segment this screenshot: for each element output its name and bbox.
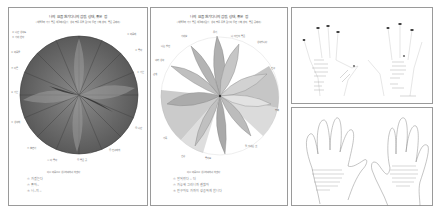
flower-mandala-drawing [151,8,289,207]
handwritten-label: 관계 [153,72,157,76]
footer-item: ② 가능해 그러니까 괜찮아 [173,183,209,187]
handwritten-label: 건강 [181,154,185,158]
panel-flower-mandala: 나의 요즘 환기다니의 감정, 상태, 좋은 점 (색을 골라 가장 좋은 색깔… [150,7,288,206]
handwritten-label: 친구 [271,66,275,70]
footer-item: ① 가겠는다 [27,177,43,181]
handwritten-label: 나는 발전 [161,44,170,48]
handwritten-label: ⑩ 불면서 [27,146,36,150]
handwritten-label: ② 좋아 [135,48,142,52]
handwritten-label: ⑫ 좋은 곳 [77,158,87,162]
handwritten-label: ③ 마음에 [127,32,136,36]
handwritten-label: ⑧ 기분 [11,90,18,94]
panel-dark-mandala: 나의 요즘 환기다니의 감정, 상태, 좋은 점 (색을 골라 가장 좋은 색깔… [8,7,148,206]
handwritten-label: ⑦ 다른 [11,66,18,70]
hands-fingernail-drawing [292,8,434,105]
handwritten-label: ⑥ 마음을 [11,50,20,54]
footer-title: 다시 마음으로 생활하며 하려 하겠다 [47,170,80,174]
handwritten-label: ⑨ 생각해 [11,120,20,124]
panel-hands-top [291,7,433,104]
panel-hands-bottom [291,107,433,206]
footer-item: ③ 너~지~ [27,189,42,193]
handwritten-label: ① 기분 [137,70,144,74]
footer-item: ① 잘되었다 ~ 더 [173,177,196,181]
footer-item: ② 좋아~ [27,183,39,187]
handwritten-label: ⑤ 기대 반아 [12,35,24,39]
footer-item: ③ 친구와도 가까이 성공하게 합니다 [173,189,222,193]
handwritten-label: 잘 지내는 것 [245,144,257,148]
handwritten-label: 생각합니다 [257,40,267,44]
handwritten-label: ⑪ 다 좋아 [47,158,57,162]
handwritten-label: 용기 [213,30,217,34]
footer-title: 다시 마음으로 생활하며 하려 하겠다 [187,170,220,174]
handwritten-label: 기대할 [181,34,187,38]
handwritten-label: ⑭ 나만 [135,126,142,130]
handwritten-label: 나 자신의 좋은 [231,34,245,38]
handwritten-label: 가족 [163,136,167,140]
handwritten-label: 여러 생각 [155,58,164,62]
hands-outline-drawing [292,108,434,207]
handwritten-label: ④ 나만 생각도 [12,30,26,34]
handwritten-label: 행복 [275,108,279,112]
handwritten-label: 좋아요 [205,156,211,160]
handwritten-label: ⑬ 친구에게 [109,148,120,152]
